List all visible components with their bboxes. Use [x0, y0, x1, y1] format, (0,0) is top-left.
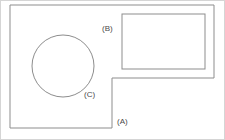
label-a: (A) [117, 117, 128, 126]
inner-rectangle-shape-b [122, 14, 205, 69]
label-c: (C) [84, 90, 95, 99]
diagram-vector-layer [0, 0, 225, 140]
diagram-canvas: (A) (B) (C) [0, 0, 225, 140]
label-b: (B) [102, 24, 113, 33]
circle-shape-c [32, 35, 94, 97]
